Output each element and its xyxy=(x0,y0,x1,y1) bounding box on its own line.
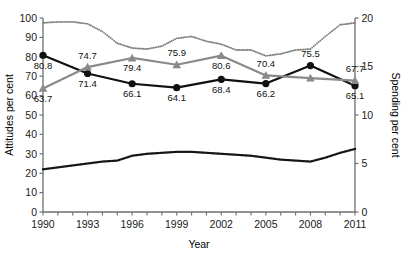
dotted-point xyxy=(257,52,259,54)
data-point-marker xyxy=(218,76,225,83)
dotted-point xyxy=(275,54,277,56)
dotted-point xyxy=(123,44,125,46)
dotted-point xyxy=(169,41,171,43)
dotted-point xyxy=(201,39,203,41)
dotted-point xyxy=(64,21,66,23)
dotted-point xyxy=(235,49,237,51)
dotted-point xyxy=(134,47,136,49)
dotted-point xyxy=(100,30,102,32)
dotted-point xyxy=(281,53,283,55)
dotted-point xyxy=(260,53,262,55)
dotted-point xyxy=(342,23,344,25)
dotted-point xyxy=(171,40,173,42)
data-point-marker xyxy=(262,80,269,87)
data-point-label: 75.5 xyxy=(301,48,320,59)
dotted-point xyxy=(209,41,211,43)
data-point-marker xyxy=(84,70,91,77)
y-tick-label-left: 50 xyxy=(25,109,37,121)
dotted-point xyxy=(191,35,193,37)
x-tick-label: 1996 xyxy=(120,218,144,230)
dotted-point xyxy=(204,40,206,42)
y-tick-label-left: 70 xyxy=(25,70,37,82)
dotted-point xyxy=(144,48,146,50)
y-tick-label-right: 10 xyxy=(362,109,374,121)
dotted-point xyxy=(250,49,252,51)
dotted-point xyxy=(313,45,315,47)
y-axis-title-left: Attitudes per cent xyxy=(3,74,15,156)
dotted-point xyxy=(283,52,285,54)
dotted-point xyxy=(222,44,224,46)
x-tick-label: 2011 xyxy=(344,218,367,230)
x-tick-label: 1999 xyxy=(165,218,189,230)
dotted-point xyxy=(181,37,183,39)
dotted-point xyxy=(346,23,348,25)
dotted-point xyxy=(272,54,274,56)
dotted-point xyxy=(149,47,151,49)
data-point-label: 71.4 xyxy=(78,78,97,89)
dotted-point xyxy=(349,23,351,25)
dotted-point xyxy=(57,21,59,23)
dotted-point xyxy=(207,41,209,43)
dotted-point xyxy=(113,40,115,42)
dotted-point xyxy=(67,21,69,23)
chart-figure: 0102030405060708090100051015201990199319… xyxy=(0,0,403,260)
dotted-point xyxy=(278,53,280,55)
dotted-point xyxy=(314,44,316,46)
dotted-point xyxy=(85,23,87,25)
data-point-marker xyxy=(39,52,46,59)
dotted-point xyxy=(273,54,275,56)
dotted-point xyxy=(166,43,168,45)
dotted-point xyxy=(290,50,292,52)
y-tick-label-right: 0 xyxy=(362,206,368,218)
dotted-point xyxy=(270,54,272,56)
dotted-point xyxy=(344,23,346,25)
y-axis-title-right: Spending per cent xyxy=(390,72,402,157)
dotted-point xyxy=(323,37,325,39)
dotted-point xyxy=(333,29,335,31)
dotted-point xyxy=(106,35,108,37)
dotted-point xyxy=(50,21,52,23)
data-point-label: 65.1 xyxy=(346,90,365,101)
dotted-point xyxy=(164,43,166,45)
dotted-point xyxy=(68,21,70,23)
dotted-point xyxy=(108,36,110,38)
dotted-point xyxy=(187,36,189,38)
dotted-point xyxy=(255,51,257,53)
dotted-point xyxy=(168,42,170,44)
data-point-marker xyxy=(307,62,314,69)
dotted-point xyxy=(87,23,89,25)
dotted-point xyxy=(70,21,72,23)
y-tick-label-left: 0 xyxy=(31,206,37,218)
dotted-point xyxy=(296,49,298,51)
dotted-point xyxy=(247,49,249,51)
y-tick-label-left: 90 xyxy=(25,31,37,43)
dotted-point xyxy=(225,45,227,47)
dotted-point xyxy=(214,42,216,44)
dotted-point xyxy=(174,38,176,40)
dotted-point xyxy=(293,49,295,51)
dotted-point xyxy=(176,37,178,39)
data-point-label: 75.9 xyxy=(167,47,186,58)
y-tick-label-left: 100 xyxy=(19,12,37,24)
dotted-point xyxy=(262,54,264,56)
dotted-point xyxy=(295,49,297,51)
dotted-point xyxy=(328,33,330,35)
dotted-point xyxy=(263,54,265,56)
y-tick-label-left: 30 xyxy=(25,148,37,160)
dotted-point xyxy=(192,36,194,38)
data-point-label: 63.7 xyxy=(34,93,53,104)
dotted-point xyxy=(336,26,338,28)
dotted-point xyxy=(60,21,62,23)
dotted-point xyxy=(329,32,331,34)
dotted-point xyxy=(136,47,138,49)
x-tick-label: 1993 xyxy=(76,218,100,230)
dotted-point xyxy=(80,22,82,24)
dotted-point xyxy=(229,46,231,48)
data-point-label: 67.7 xyxy=(346,63,365,74)
dotted-point xyxy=(97,28,99,30)
dotted-point xyxy=(44,22,46,24)
dotted-point xyxy=(172,39,174,41)
y-tick-label-right: 20 xyxy=(362,12,374,24)
dotted-point xyxy=(75,21,77,23)
dotted-point xyxy=(230,47,232,49)
